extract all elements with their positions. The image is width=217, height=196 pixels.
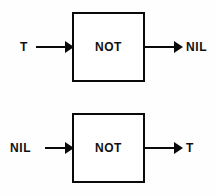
not-gate-box-bottom: NOT	[72, 113, 145, 183]
output-wire-top	[145, 46, 175, 48]
gate-label-bottom: NOT	[74, 115, 143, 181]
input-wire-bottom	[45, 147, 66, 149]
output-arrowhead-icon-bottom	[174, 142, 183, 154]
input-signal-label-top: T	[20, 39, 28, 55]
not-gate-box-top: NOT	[72, 12, 145, 82]
output-signal-label-bottom: T	[186, 140, 194, 156]
not-gate-diagram-top: T NOT NIL	[0, 6, 217, 96]
output-signal-label-top: NIL	[186, 39, 207, 55]
logic-diagram-canvas: T NOT NIL NIL NOT T	[0, 0, 217, 196]
output-wire-bottom	[145, 147, 175, 149]
input-wire-top	[36, 46, 66, 48]
gate-label-top: NOT	[74, 14, 143, 80]
not-gate-diagram-bottom: NIL NOT T	[0, 107, 217, 196]
input-signal-label-bottom: NIL	[10, 140, 31, 156]
output-arrowhead-icon-top	[174, 41, 183, 53]
